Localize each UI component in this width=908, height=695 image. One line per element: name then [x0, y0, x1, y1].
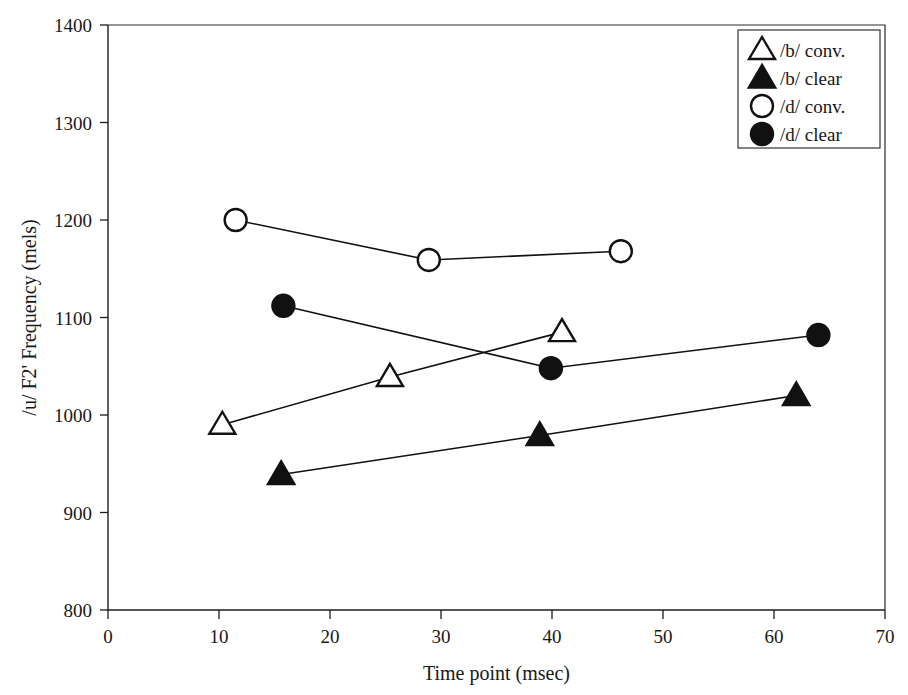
series-1-point-2-filled-triangle-marker	[782, 382, 810, 406]
legend-label-0: /b/ conv.	[780, 40, 845, 61]
series-3-point-0-filled-circle-marker	[272, 294, 295, 317]
series-2-point-2-open-circle-marker	[610, 240, 632, 262]
y-tick-label: 1300	[54, 113, 92, 134]
x-tick-label: 10	[210, 626, 229, 647]
x-tick-label: 20	[321, 626, 340, 647]
y-axis-title: /u/ F2' Frequency (mels)	[18, 219, 41, 415]
legend-3-filled-circle-marker	[751, 123, 774, 146]
y-tick-label: 900	[64, 503, 93, 524]
y-tick-label: 800	[64, 600, 93, 621]
series-2-point-0-open-circle-marker	[225, 209, 247, 231]
legend-label-1: /b/ clear	[780, 68, 842, 89]
series-3-point-2-filled-circle-marker	[807, 324, 830, 347]
legend-label-2: /d/ conv.	[780, 96, 845, 117]
y-tick-label: 1200	[54, 210, 92, 231]
chart-canvas: 8009001000110012001300140001020304050607…	[0, 0, 908, 695]
y-tick-label: 1000	[54, 405, 92, 426]
series-2-point-1-open-circle-marker	[418, 249, 440, 271]
legend-2-open-circle-marker	[751, 95, 773, 117]
series-0-point-2-open-triangle-marker	[549, 319, 575, 341]
series-3-point-1-filled-circle-marker	[539, 357, 562, 380]
x-tick-label: 0	[103, 626, 113, 647]
legend-label-3: /d/ clear	[780, 124, 842, 145]
x-tick-label: 50	[654, 626, 673, 647]
x-tick-label: 60	[765, 626, 784, 647]
x-tick-label: 70	[876, 626, 895, 647]
y-tick-label: 1400	[54, 15, 92, 36]
y-tick-label: 1100	[55, 308, 92, 329]
x-tick-label: 40	[543, 626, 562, 647]
chart-figure: 8009001000110012001300140001020304050607…	[0, 0, 908, 695]
x-axis-title: Time point (msec)	[423, 662, 570, 685]
x-tick-label: 30	[432, 626, 451, 647]
